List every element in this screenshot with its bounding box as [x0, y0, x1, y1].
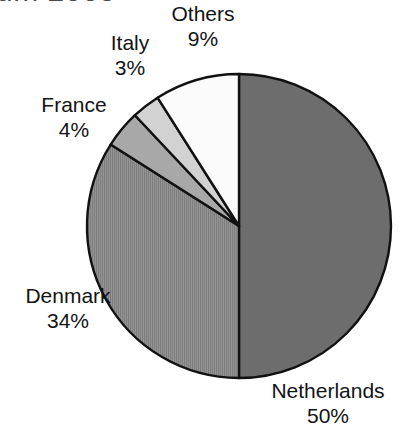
pie-slice-netherlands[interactable]	[239, 74, 391, 378]
slice-label-netherlands-name: Netherlands	[248, 379, 408, 404]
slice-label-france-name: France	[24, 93, 124, 118]
pie-slices	[87, 74, 391, 378]
pie-chart-svg	[0, 0, 413, 432]
slice-label-france: France 4%	[24, 93, 124, 143]
pie-chart-figure: um 2005 Others 9% Italy 3% France 4% Den…	[0, 0, 413, 432]
slice-label-france-value: 4%	[24, 118, 124, 143]
slice-label-others-name: Others	[148, 2, 258, 27]
slice-label-denmark-name: Denmark	[6, 284, 130, 309]
slice-label-italy: Italy 3%	[92, 31, 168, 81]
slice-label-italy-value: 3%	[92, 56, 168, 81]
slice-label-italy-name: Italy	[92, 31, 168, 56]
slice-label-netherlands: Netherlands 50%	[248, 379, 408, 429]
slice-label-denmark-value: 34%	[6, 309, 130, 334]
slice-label-denmark: Denmark 34%	[6, 284, 130, 334]
slice-label-netherlands-value: 50%	[248, 404, 408, 429]
